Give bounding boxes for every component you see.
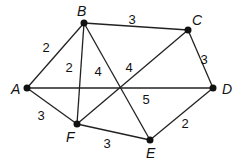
node-label-B: B [77, 3, 86, 19]
node-label-F: F [66, 129, 76, 145]
edge-weight-A-D: 5 [142, 92, 149, 107]
node-A [24, 85, 31, 92]
nodes: ABCDEF [10, 3, 232, 161]
edge-A-B [27, 23, 84, 88]
edge-weight-E-F: 3 [103, 136, 110, 151]
node-D [210, 85, 217, 92]
edge-weight-C-D: 3 [200, 52, 207, 67]
edge-B-F [77, 23, 84, 124]
edge-B-E [84, 23, 150, 140]
edge-weight-F-C: 4 [125, 60, 132, 75]
edges: 2332332445 [27, 12, 213, 151]
edge-weight-B-C: 3 [128, 12, 135, 27]
edge-E-F [77, 124, 150, 140]
edge-D-E [150, 88, 213, 140]
edge-F-A [27, 88, 77, 124]
node-B [81, 20, 88, 27]
node-C [185, 27, 192, 34]
node-E [147, 137, 154, 144]
node-F [74, 121, 81, 128]
node-label-E: E [146, 145, 156, 161]
weighted-graph: 2332332445 ABCDEF [0, 0, 243, 163]
edge-weight-B-E: 4 [94, 64, 101, 79]
edge-weight-A-B: 2 [42, 40, 49, 55]
node-label-D: D [222, 81, 232, 97]
edge-weight-F-A: 3 [37, 108, 44, 123]
node-label-C: C [192, 12, 203, 28]
edge-weight-D-E: 2 [181, 116, 188, 131]
edge-B-C [84, 23, 188, 30]
edge-weight-B-F: 2 [65, 60, 72, 75]
node-label-A: A [10, 81, 20, 97]
